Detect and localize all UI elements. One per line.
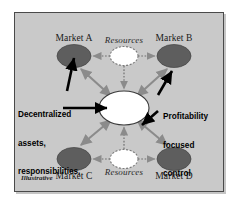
diagram-canvas: Market A Market B Market C Market D Reso… xyxy=(0,0,236,205)
decentralized-line-2: assets, xyxy=(18,139,88,149)
connector-hub-market-b xyxy=(137,69,167,96)
market-b-label: Market B xyxy=(153,33,195,43)
profitability-annotation-text: Profitability focused control systems xyxy=(163,93,221,192)
market-b-node[interactable] xyxy=(157,45,191,68)
resources-bottom-node[interactable] xyxy=(110,150,138,169)
profitability-line-1: Profitability xyxy=(163,112,221,122)
market-a-label: Market A xyxy=(53,33,95,43)
profitability-line-3: control xyxy=(163,169,221,179)
resources-top-node[interactable] xyxy=(110,47,138,66)
resources-bottom-label: Resources xyxy=(98,168,150,178)
diagram-panel: Market A Market B Market C Market D Reso… xyxy=(14,12,224,192)
decentralized-line-1: Decentralized xyxy=(18,110,88,120)
resources-top-label: Resources xyxy=(98,36,150,46)
illustrative-caption: Illustrative xyxy=(21,175,53,183)
profitability-line-2: focused xyxy=(163,141,221,151)
